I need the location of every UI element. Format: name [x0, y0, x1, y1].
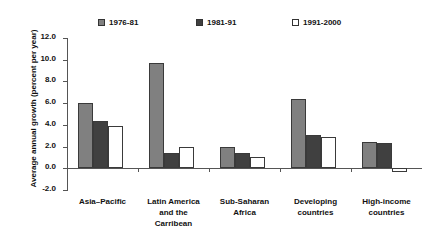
y-axis-tick: 10.0 [63, 60, 68, 61]
bar [392, 168, 407, 171]
legend-label: 1991-2000 [303, 18, 341, 27]
x-axis-tick [351, 168, 352, 172]
legend-swatch-icon [292, 19, 299, 26]
y-axis-tick: 4.0 [63, 125, 68, 126]
legend-item-1991-2000: 1991-2000 [292, 14, 341, 30]
x-axis-tick [138, 168, 139, 172]
y-axis-tick: 6.0 [63, 103, 68, 104]
bar [250, 157, 265, 168]
bar [108, 126, 123, 168]
legend-swatch-icon [196, 19, 203, 26]
x-axis-tick [280, 168, 281, 172]
bar [179, 147, 194, 169]
bar [93, 121, 108, 169]
bar [235, 153, 250, 168]
x-axis-tick [209, 168, 210, 172]
y-axis-tick-label: 0.0 [45, 162, 56, 172]
x-axis-category-label: High-income countries [343, 196, 429, 218]
bar [362, 142, 377, 168]
y-axis-tick-label: 12.0 [40, 32, 56, 42]
x-axis-category-labels: Asia–PacificLatin America and the Carrib… [67, 196, 422, 240]
y-axis-tick-label: -2.0 [42, 184, 56, 194]
y-axis-tick: 2.0 [63, 147, 68, 148]
legend-label: 1976-81 [109, 18, 138, 27]
y-axis-tick: 12.0 [63, 38, 68, 39]
bar [306, 135, 321, 169]
bar [220, 147, 235, 169]
y-axis-tick: 0.0 [63, 168, 68, 169]
legend-label: 1981-91 [207, 18, 236, 27]
legend-item-1976-81: 1976-81 [98, 14, 138, 30]
y-axis-tick-label: 6.0 [45, 97, 56, 107]
y-axis-tick-label: 10.0 [40, 54, 56, 64]
bar [321, 137, 336, 168]
legend-item-1981-91: 1981-91 [196, 14, 236, 30]
y-axis-tick: 8.0 [63, 81, 68, 82]
bar [164, 153, 179, 168]
bar-chart: 1976-81 1981-91 1991-2000 Average annual… [0, 0, 429, 240]
y-axis-tick: -2.0 [63, 190, 68, 191]
bar [78, 103, 93, 168]
y-axis-tick-label: 8.0 [45, 75, 56, 85]
y-axis-tick-label: 4.0 [45, 119, 56, 129]
bar [377, 143, 392, 168]
y-axis-title: Average annual growth (percent per year) [29, 14, 38, 204]
y-axis-tick-label: 2.0 [45, 141, 56, 151]
bar [149, 63, 164, 168]
bar [291, 99, 306, 168]
plot-area: 12.010.08.06.04.02.00.0-2.0 [67, 38, 422, 190]
chart-legend: 1976-81 1981-91 1991-2000 [90, 14, 420, 30]
legend-swatch-icon [98, 19, 105, 26]
